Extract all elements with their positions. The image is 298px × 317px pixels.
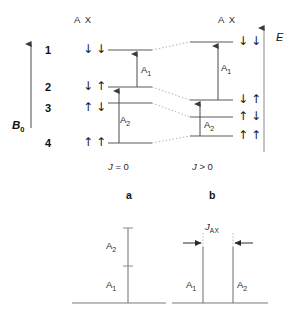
spectrum-a-label-a1-sub: 1 (112, 285, 116, 292)
spin-x-arrow-left-1: ↓ (96, 43, 106, 55)
level-number-3: 3 (45, 103, 51, 114)
panel-a-coupling-value: = 0 (113, 161, 129, 172)
spectrum-a-label-a2-sub: 2 (112, 246, 116, 253)
spin-a-arrow-left-3: ↑ (83, 101, 93, 113)
panel-b-label-a1-sub: 1 (227, 68, 231, 75)
ax-header-left: A X (74, 15, 92, 25)
b0-axis-label: B0 (12, 120, 24, 134)
spin-x-arrow-left-4: ↑ (96, 136, 106, 148)
spin-x-arrow-right-2: ↑ (251, 93, 261, 105)
spin-x-arrow-right-3: ↓ (251, 110, 261, 122)
spin-pair-right-1: ↓↓ (238, 35, 261, 47)
panel-a-label-a2-sub: 2 (126, 120, 130, 127)
spectrum-b-label-a2: A2 (237, 280, 247, 292)
spin-pair-right-2: ↓↑ (238, 93, 261, 105)
panel-b-caption: b (209, 190, 215, 201)
spin-a-arrow-right-3: ↑ (238, 110, 248, 122)
spin-pair-right-4: ↑↑ (238, 129, 261, 141)
panel-a-label-a1: A1 (141, 65, 151, 77)
spin-x-arrow-left-2: ↑ (96, 80, 106, 92)
energy-axis-label: E (276, 32, 283, 43)
panel-b-label-a2: A2 (204, 120, 214, 132)
spin-pair-left-3: ↑↓ (83, 101, 106, 113)
spin-a-arrow-right-4: ↑ (238, 129, 248, 141)
panel-a-label-a2: A2 (120, 115, 130, 127)
level-number-2: 2 (45, 82, 51, 93)
spin-pair-left-1: ↓↓ (83, 43, 106, 55)
panel-a-caption: a (126, 190, 132, 201)
spectrum-b-label-a1: A1 (186, 280, 196, 292)
spin-a-arrow-left-1: ↓ (83, 43, 93, 55)
spin-x-arrow-left-3: ↓ (96, 101, 106, 113)
level-correlation-lines (152, 42, 190, 143)
spin-a-arrow-right-2: ↓ (238, 93, 248, 105)
spectrum-b-label-a1-sub: 1 (192, 285, 196, 292)
spectrum-b-label-a2-sub: 2 (243, 285, 247, 292)
panel-b-coupling-value: > 0 (197, 161, 213, 172)
jax-coupling-sub: AX (210, 227, 219, 234)
panel-b-label-a2-sub: 2 (210, 125, 214, 132)
spin-a-arrow-left-4: ↑ (83, 136, 93, 148)
panel-b-coupling-label: J > 0 (192, 162, 213, 172)
panel-b-label-a1: A1 (221, 63, 231, 75)
b0-axis-label-sub: 0 (20, 125, 24, 134)
spin-x-arrow-right-1: ↓ (251, 35, 261, 47)
spin-x-arrow-right-4: ↑ (251, 129, 261, 141)
spin-a-arrow-left-2: ↓ (83, 80, 93, 92)
spin-a-arrow-right-1: ↓ (238, 35, 248, 47)
ax-header-right: A X (218, 15, 236, 25)
spin-pair-right-3: ↑↓ (238, 110, 261, 122)
panel-a-label-a1-sub: 1 (147, 70, 151, 77)
spin-pair-left-4: ↑↑ (83, 136, 106, 148)
spectrum-a (72, 228, 166, 303)
level-number-4: 4 (45, 138, 51, 149)
spectrum-a-label-a2: A2 (106, 241, 116, 253)
spectrum-a-label-a1: A1 (106, 280, 116, 292)
level-number-1: 1 (45, 45, 51, 56)
panel-a-coupling-label: J = 0 (108, 162, 129, 172)
ax-energy-level-figure: A X A X B0 E 1 2 3 4 ↓↓ ↓↑ ↑↓ ↑↑ ↓↓ ↓↑ ↑… (0, 0, 298, 317)
spin-pair-left-2: ↓↑ (83, 80, 106, 92)
jax-coupling-label: JAX (205, 222, 219, 234)
